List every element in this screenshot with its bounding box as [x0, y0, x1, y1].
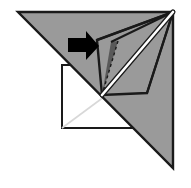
origami-diagram [0, 0, 191, 188]
origami-diagram-canvas [0, 0, 191, 188]
